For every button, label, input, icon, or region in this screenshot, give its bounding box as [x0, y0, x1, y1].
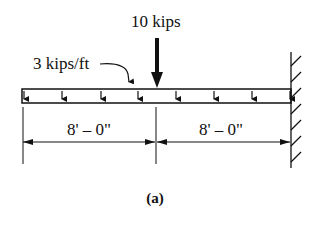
- distributed-load-leader-icon: [100, 64, 129, 82]
- point-load-arrow-icon: [151, 38, 163, 88]
- point-load-label: 10 kips: [131, 12, 181, 31]
- beam-diagram: 3 kips/ft 10 kips 8' – 0" 8' – 0" (a): [0, 0, 329, 225]
- distributed-load-label: 3 kips/ft: [33, 54, 89, 73]
- distributed-load-arrows: [24, 91, 290, 99]
- fixed-wall-support-icon: [291, 52, 301, 168]
- figure-caption: (a): [146, 190, 164, 207]
- dimension-label-right: 8' – 0": [199, 120, 243, 139]
- dimension-label-left: 8' – 0": [67, 120, 111, 139]
